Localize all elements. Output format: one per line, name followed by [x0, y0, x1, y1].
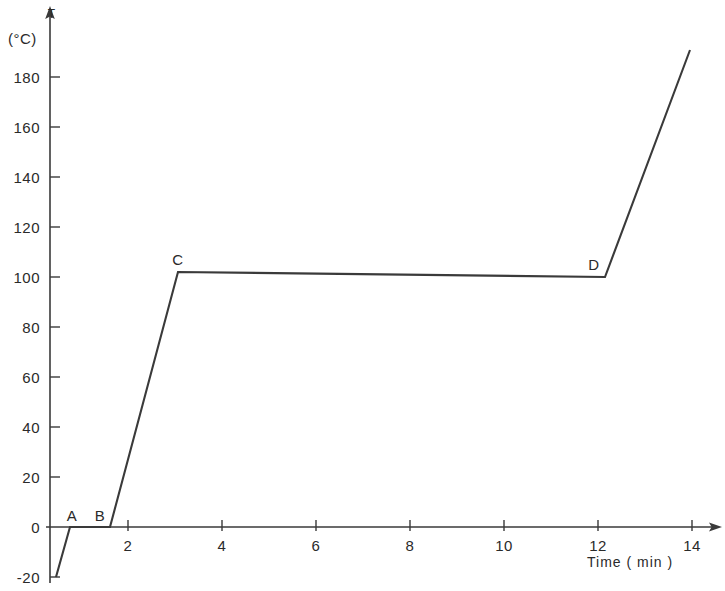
heating-curve-chart: T (°C) 180 160 140 120 100 80 60 40 20 0… — [0, 0, 725, 591]
y-tick-label: 60 — [0, 370, 40, 385]
x-tick-label: 6 — [312, 538, 321, 553]
y-tick-label: 0 — [0, 520, 40, 535]
data-series-heating-curve — [56, 50, 690, 577]
y-tick-label: 40 — [0, 420, 40, 435]
point-label-b: B — [95, 508, 106, 523]
point-label-a: A — [67, 508, 78, 523]
x-tick-label: 2 — [124, 538, 133, 553]
x-axis-title: Time ( min ) — [587, 555, 673, 569]
y-axis-unit-label: (°C) — [8, 31, 37, 46]
y-tick-label: 160 — [0, 120, 40, 135]
x-tick-label: 8 — [406, 538, 415, 553]
x-axis — [46, 522, 722, 531]
x-tick-label: 14 — [683, 538, 701, 553]
y-tick-label: 180 — [0, 70, 40, 85]
x-tick-label: 10 — [495, 538, 513, 553]
y-tick-label: 80 — [0, 320, 40, 335]
y-axis — [45, 6, 55, 583]
x-tick-label: 12 — [589, 538, 607, 553]
y-tick-label: 120 — [0, 220, 40, 235]
y-tick-label: -20 — [0, 570, 40, 585]
x-tick-label: 4 — [218, 538, 227, 553]
y-axis-ticks — [50, 77, 60, 577]
y-tick-label: 140 — [0, 170, 40, 185]
point-label-d: D — [588, 257, 599, 272]
y-axis-title: T — [48, 8, 56, 20]
chart-plot-area — [0, 0, 725, 591]
y-tick-label: 100 — [0, 270, 40, 285]
point-label-c: C — [172, 252, 183, 267]
y-tick-label: 20 — [0, 470, 40, 485]
x-axis-ticks — [128, 520, 692, 531]
